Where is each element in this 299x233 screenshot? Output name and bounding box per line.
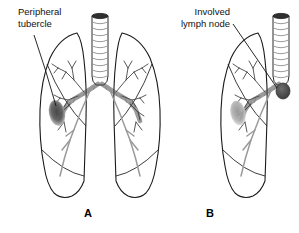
involved-lymph-node-lesion <box>276 83 290 99</box>
panel-letter-b: B <box>206 207 214 219</box>
panel-b-group <box>221 13 290 197</box>
peripheral-tubercle-label: Peripheral tubercle <box>18 6 61 29</box>
panel-a-group <box>34 13 160 197</box>
trachea-b <box>273 13 289 85</box>
panel-letter-a: A <box>84 207 92 219</box>
trachea-a <box>92 13 108 85</box>
involved-lymph-node-label: Involved lymph node <box>152 6 230 29</box>
medical-illustration-figure: Peripheral tubercle Involved lymph node … <box>0 0 299 233</box>
lungs-diagram-svg <box>0 0 299 233</box>
